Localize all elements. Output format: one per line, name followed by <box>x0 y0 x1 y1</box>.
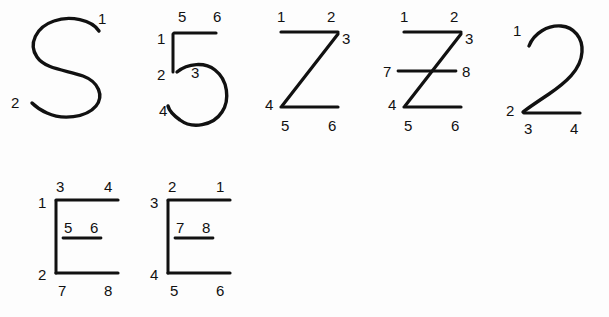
label-endpoint-1: 1 <box>513 22 521 39</box>
label-endpoint-2: 2 <box>506 102 514 119</box>
cursive-2-curve <box>523 26 582 112</box>
figure-sheet: 1 2 5 6 1 2 3 4 1 2 3 4 5 <box>0 0 609 317</box>
figure-cursive-2: 1 2 3 4 <box>0 0 609 150</box>
label-endpoint-5: 5 <box>170 282 178 299</box>
label-endpoint-4: 4 <box>570 120 578 137</box>
label-endpoint-7: 7 <box>176 219 184 236</box>
label-endpoint-2: 2 <box>168 178 176 195</box>
figure-block-e-right: 2 1 3 7 8 4 5 6 <box>0 160 260 317</box>
label-endpoint-8: 8 <box>202 219 210 236</box>
label-endpoint-1: 1 <box>216 178 224 195</box>
label-endpoint-3: 3 <box>524 120 532 137</box>
label-endpoint-3: 3 <box>150 194 158 211</box>
label-endpoint-6: 6 <box>216 282 224 299</box>
label-endpoint-4: 4 <box>150 266 158 283</box>
